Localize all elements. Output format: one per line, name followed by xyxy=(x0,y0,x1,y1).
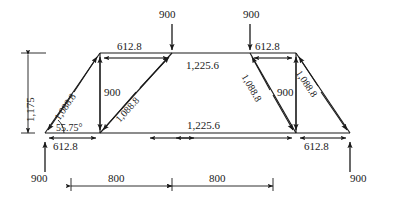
arrow-left-diag-up xyxy=(140,57,169,88)
load-label-top-right: 900 xyxy=(243,8,260,20)
span-dimensions xyxy=(71,178,273,191)
top-chord-left-force-label: 612.8 xyxy=(117,40,142,52)
height-label: 1,175 xyxy=(24,97,36,122)
right-vertical-force-label: 900 xyxy=(277,86,294,98)
load-label-top-left: 900 xyxy=(159,8,176,20)
top-chord-mid-force-label: 1,225.6 xyxy=(186,59,219,71)
top-chord-right-force-label: 612.8 xyxy=(255,40,280,52)
angle-label: 55.75° xyxy=(56,122,83,133)
left-vertical-force-label: 900 xyxy=(104,86,121,98)
reaction-label-right: 900 xyxy=(350,172,367,184)
span-label-right: 800 xyxy=(209,172,226,184)
reaction-label-left: 900 xyxy=(31,172,48,184)
bottom-chord-mid-force-label: 1,225.6 xyxy=(187,119,220,131)
bottom-chord-left-force-label: 612.8 xyxy=(53,140,78,152)
arrow-left-post-up xyxy=(74,57,97,92)
arrow-right-post-down xyxy=(321,92,347,130)
truss-diagram: 1,175 55.75° 1,088.8 1,088.8 1,088.8 1,0… xyxy=(0,0,396,212)
bottom-chord-right-force-label: 612.8 xyxy=(304,140,329,152)
arrow-right-diag-down xyxy=(273,95,293,130)
span-label-left: 800 xyxy=(108,172,125,184)
